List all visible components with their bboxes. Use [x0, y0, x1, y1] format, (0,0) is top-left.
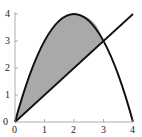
- x-tick-2: 2: [71, 124, 76, 135]
- x-tick-0: 0: [12, 124, 17, 135]
- y-tick-2: 2: [5, 62, 10, 73]
- chart: 0 1 2 3 4 0 1 2 3 4: [0, 0, 142, 137]
- x-tick-1: 1: [42, 124, 47, 135]
- x-tick-3: 3: [101, 124, 106, 135]
- shaded-region: [15, 14, 104, 122]
- x-tick-4: 4: [130, 124, 135, 135]
- y-tick-3: 3: [5, 35, 10, 46]
- y-tick-0: 0: [3, 116, 8, 127]
- y-tick-4: 4: [5, 8, 10, 19]
- y-tick-1: 1: [5, 89, 10, 100]
